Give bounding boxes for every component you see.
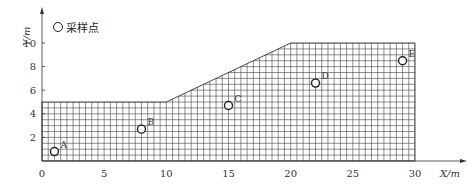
x-tick-label: 20 <box>284 168 297 179</box>
sample-point-label: D <box>322 71 329 81</box>
y-tick-label: 6 <box>30 85 36 96</box>
sample-point-label: A <box>59 140 67 150</box>
sample-point-label: C <box>235 94 242 104</box>
sample-point-label: E <box>409 49 416 59</box>
y-axis-arrow-icon <box>40 7 44 14</box>
x-tick-label: 0 <box>39 168 45 179</box>
y-tick-label: 8 <box>30 61 36 72</box>
x-tick-label: 10 <box>160 168 173 179</box>
x-axis-label: X/m <box>439 168 460 179</box>
y-tick-label: 4 <box>30 108 36 119</box>
sample-point-a <box>50 148 58 156</box>
x-tick-label: 30 <box>409 168 422 179</box>
y-tick-label: 2 <box>30 132 36 143</box>
y-axis-label: Y/m <box>21 27 32 46</box>
plot-area: 051015202530246810X/mY/mABCDE <box>0 0 476 192</box>
x-tick-label: 15 <box>222 168 235 179</box>
sample-point-label: B <box>147 117 154 127</box>
sample-point-d <box>312 79 320 87</box>
x-tick-label: 5 <box>101 168 107 179</box>
x-axis-arrow-icon <box>460 159 467 163</box>
sample-point-c <box>225 102 233 110</box>
x-tick-label: 25 <box>346 168 359 179</box>
sample-point-b <box>137 125 145 133</box>
sample-point-e <box>399 57 407 65</box>
